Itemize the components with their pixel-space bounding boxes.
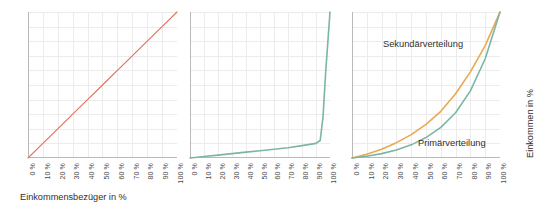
x-tick-label: 0 %: [352, 161, 362, 195]
x-tick-label: 70 %: [455, 161, 465, 195]
x-tick-label: 20 %: [218, 161, 228, 195]
x-tick-label: 10 %: [204, 161, 214, 195]
x-tick-label: 100 %: [499, 161, 509, 195]
x-tick-label: 50 %: [102, 161, 112, 195]
x-tick-label: 100 %: [329, 161, 339, 195]
series-label-sekundaerverteilung: Sekundärverteilung: [383, 39, 463, 49]
lorenz-curve-figure: 0 %10 %20 %30 %40 %50 %60 %70 %80 %90 %1…: [0, 0, 538, 208]
plot-area-2: [190, 12, 330, 158]
x-tick-labels-2: 0 %10 %20 %30 %40 %50 %60 %70 %80 %90 %1…: [190, 161, 330, 195]
series-inequality-curve: [190, 12, 330, 158]
x-tick-label: 10 %: [367, 161, 377, 195]
x-tick-label: 20 %: [381, 161, 391, 195]
x-tick-label: 40 %: [87, 161, 97, 195]
x-tick-label: 80 %: [470, 161, 480, 195]
x-tick-label: 10 %: [43, 161, 53, 195]
x-tick-label: 80 %: [301, 161, 311, 195]
x-tick-label: 40 %: [246, 161, 256, 195]
x-tick-label: 80 %: [146, 161, 156, 195]
series-distribution-curves: [352, 12, 500, 158]
x-tick-label: 30 %: [232, 161, 242, 195]
chart-panel-equality: 0 %10 %20 %30 %40 %50 %60 %70 %80 %90 %1…: [0, 0, 180, 208]
x-tick-label: 60 %: [117, 161, 127, 195]
x-tick-labels-1: 0 %10 %20 %30 %40 %50 %60 %70 %80 %90 %1…: [28, 161, 177, 195]
x-tick-label: 90 %: [161, 161, 171, 195]
chart-panel-inequality: 0 %10 %20 %30 %40 %50 %60 %70 %80 %90 %1…: [180, 0, 350, 208]
x-tick-label: 0 %: [190, 161, 200, 195]
series-label-primaerverteilung: Primärverteilung: [418, 138, 486, 148]
x-tick-labels-3: 0 %10 %20 %30 %40 %50 %60 %70 %80 %90 %1…: [352, 161, 500, 195]
chart-panel-distribution: 0 %10 %20 %30 %40 %50 %60 %70 %80 %90 %1…: [350, 0, 538, 208]
x-tick-label: 20 %: [58, 161, 68, 195]
x-tick-label: 50 %: [260, 161, 270, 195]
x-axis-title: Einkommensbezüger in %: [20, 192, 127, 202]
x-tick-label: 30 %: [396, 161, 406, 195]
x-tick-label: 50 %: [426, 161, 436, 195]
x-tick-label: 0 %: [28, 161, 38, 195]
x-tick-label: 90 %: [484, 161, 494, 195]
x-tick-label: 70 %: [287, 161, 297, 195]
series-equality-line: [28, 12, 177, 158]
plot-area-3: [352, 12, 500, 158]
x-tick-label: 70 %: [132, 161, 142, 195]
plot-area-1: [28, 12, 177, 158]
x-tick-label: 60 %: [440, 161, 450, 195]
x-tick-label: 90 %: [315, 161, 325, 195]
x-tick-label: 30 %: [72, 161, 82, 195]
y-axis-title: Einkommen in %: [525, 89, 535, 158]
x-tick-label: 60 %: [273, 161, 283, 195]
x-tick-label: 40 %: [411, 161, 421, 195]
